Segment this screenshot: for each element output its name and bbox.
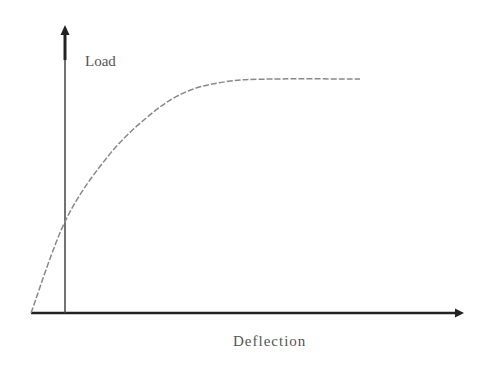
x-axis-label: Deflection bbox=[233, 333, 306, 349]
y-axis-arrowhead bbox=[61, 25, 70, 35]
load-deflection-curve bbox=[31, 79, 360, 313]
load-deflection-diagram: Load Deflection bbox=[0, 0, 489, 366]
y-axis-label: Load bbox=[85, 53, 116, 69]
x-axis-arrowhead bbox=[455, 309, 464, 318]
